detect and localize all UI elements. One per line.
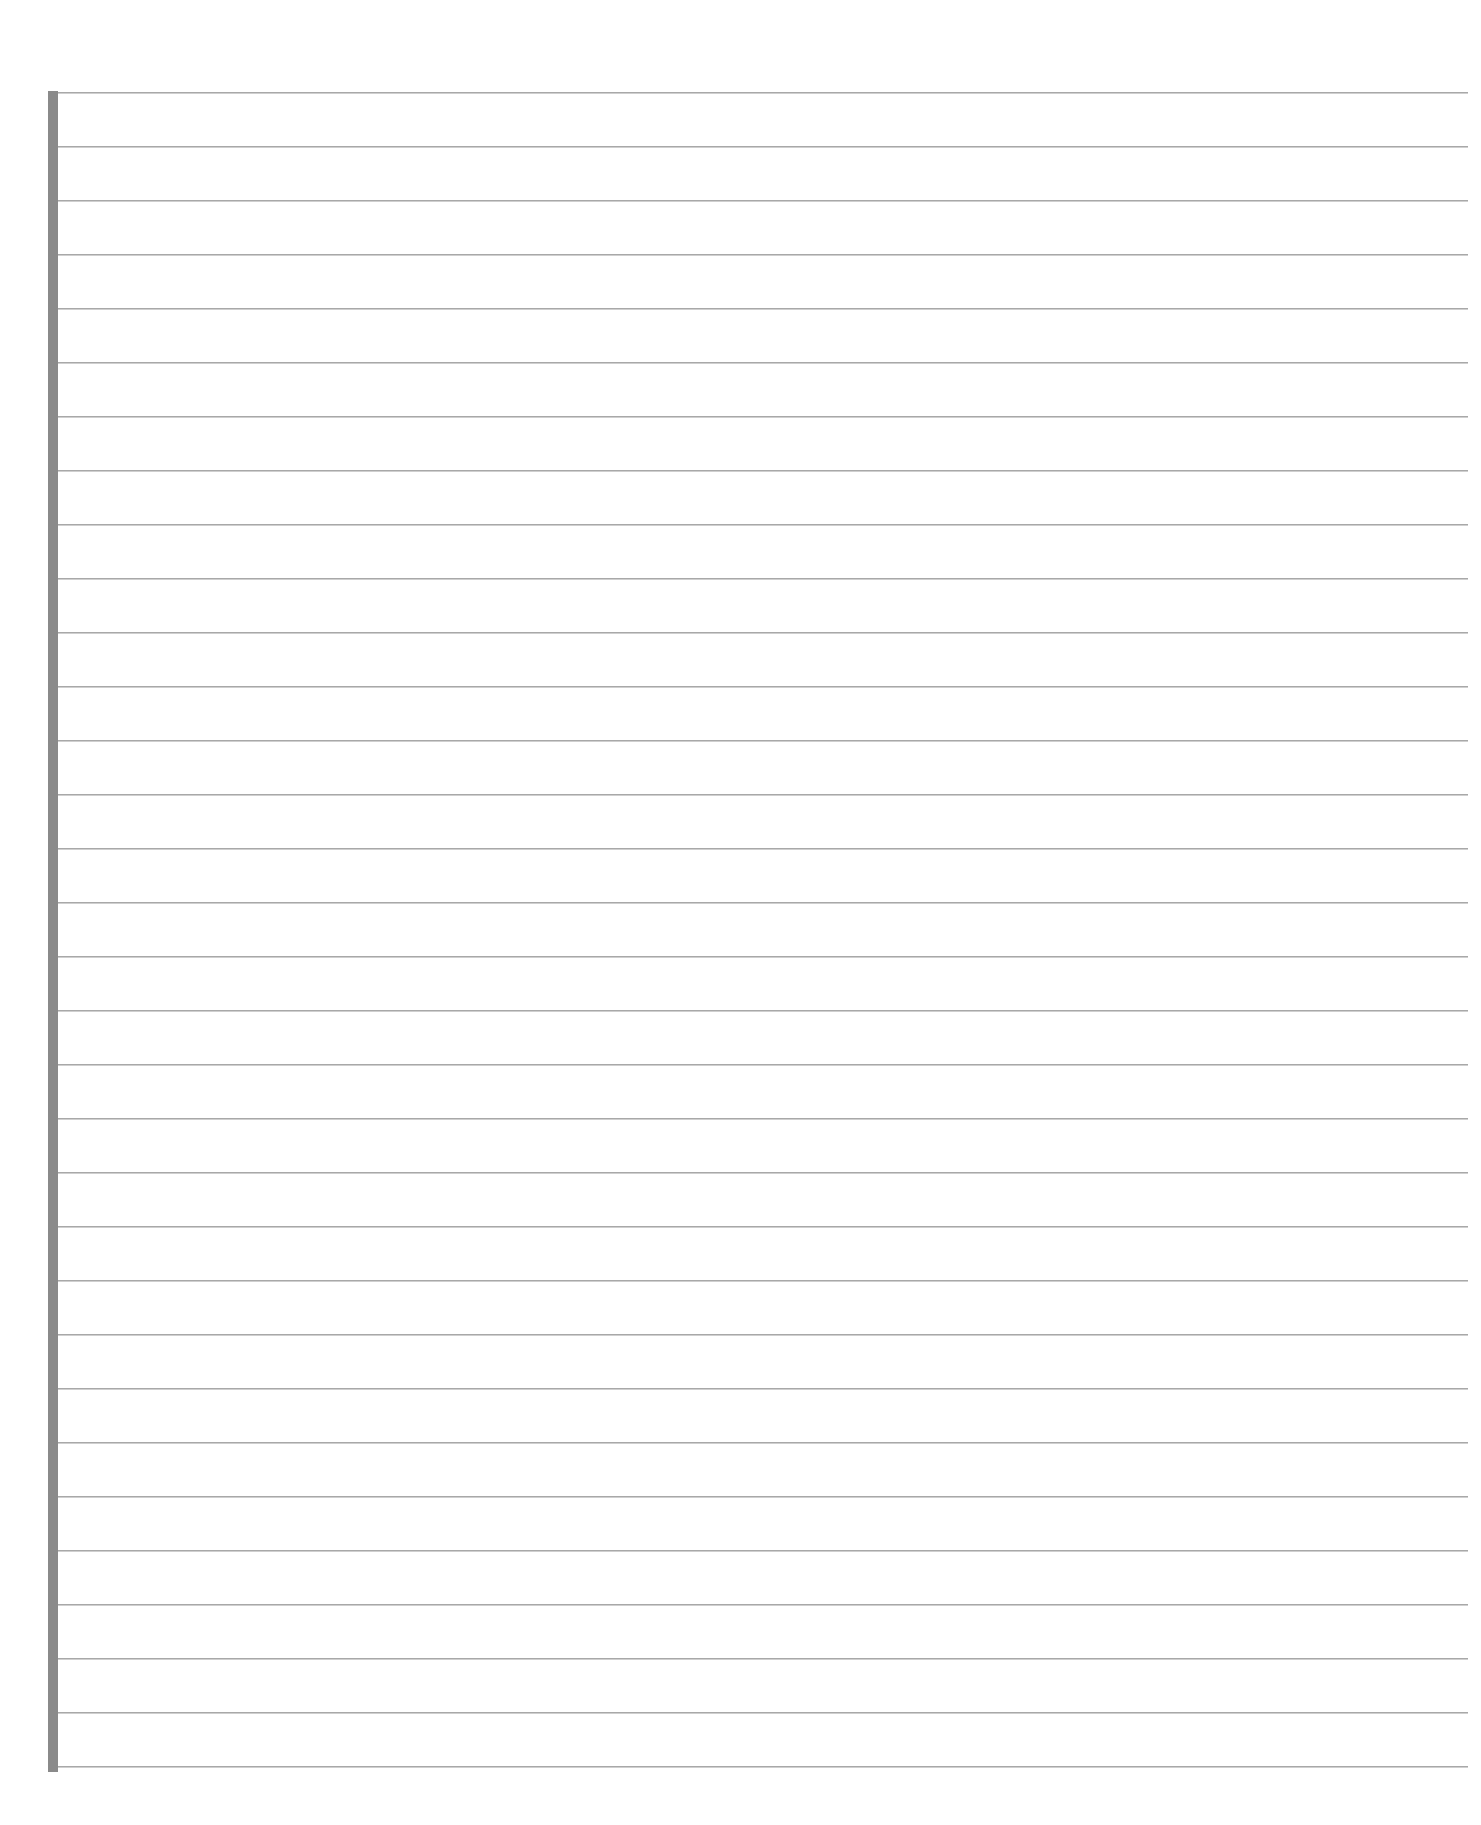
ruled-line: [58, 1226, 1468, 1228]
ruled-line: [58, 740, 1468, 742]
ruled-line: [58, 632, 1468, 634]
ruled-line: [58, 146, 1468, 148]
ruled-line: [58, 470, 1468, 472]
lined-paper-sheet: [0, 0, 1481, 1825]
ruled-line: [58, 1442, 1468, 1444]
ruled-line: [58, 1658, 1468, 1660]
ruled-line: [58, 200, 1468, 202]
ruled-line: [58, 902, 1468, 904]
ruled-line: [58, 1172, 1468, 1174]
ruled-line: [58, 308, 1468, 310]
ruled-line: [58, 1334, 1468, 1336]
ruled-line: [58, 794, 1468, 796]
ruled-line: [58, 92, 1468, 94]
ruled-line: [58, 848, 1468, 850]
ruled-line: [58, 254, 1468, 256]
ruled-line: [58, 956, 1468, 958]
ruled-line: [58, 1604, 1468, 1606]
ruled-line: [58, 1280, 1468, 1282]
ruled-line: [58, 1496, 1468, 1498]
ruled-line: [58, 1388, 1468, 1390]
left-margin-bar: [48, 91, 58, 1772]
ruled-line: [58, 1064, 1468, 1066]
ruled-line: [58, 1010, 1468, 1012]
ruled-line: [58, 524, 1468, 526]
ruled-line: [58, 1712, 1468, 1714]
ruled-line: [58, 1550, 1468, 1552]
ruled-line: [58, 416, 1468, 418]
ruled-line: [58, 1118, 1468, 1120]
ruled-line: [58, 686, 1468, 688]
ruled-line: [58, 362, 1468, 364]
ruled-line: [58, 578, 1468, 580]
ruled-line: [58, 1766, 1468, 1768]
